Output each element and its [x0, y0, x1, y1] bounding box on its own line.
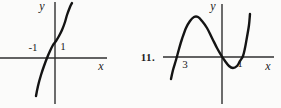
graph2-y-axis-label: y [210, 0, 215, 12]
graph1-tick-label-neg1: -1 [28, 42, 37, 53]
graph2-x-axis-label: x [265, 60, 270, 72]
graph1-tick-label-1: 1 [60, 41, 66, 52]
graph1-curve [36, 3, 72, 96]
graph2-tick-label-3: 3 [182, 59, 188, 70]
graph1-x-axis-label: x [98, 60, 103, 72]
graph1-y-axis-label: y [39, 0, 44, 12]
exercise-number: 11. [141, 52, 156, 63]
graph2-tick-label-1: 1 [237, 58, 243, 69]
textbook-figure: y -1 1 x 11. y 3 1 x [0, 0, 281, 108]
